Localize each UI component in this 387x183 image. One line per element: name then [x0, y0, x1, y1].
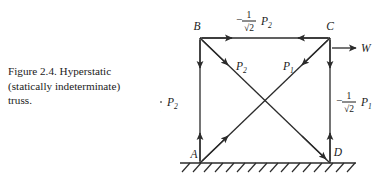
- load-label-w: W: [361, 42, 372, 54]
- force-right-sign: −: [336, 94, 342, 106]
- label-p2-diagonal: P2: [235, 60, 247, 75]
- diagonal-force-labels: P2 P1: [235, 60, 294, 75]
- force-right-numerator: 1: [347, 90, 352, 101]
- force-top-sign: −: [236, 13, 242, 25]
- label-w: W: [361, 42, 372, 54]
- arrow-diag-bd-upper: [202, 40, 228, 65]
- caption-line-1: Figure 2.4. Hyperstatic: [8, 64, 158, 79]
- ground-hatching: [182, 163, 355, 172]
- force-top-numerator: 1: [247, 9, 252, 20]
- caption-line-3: truss.: [8, 93, 158, 108]
- truss-diagram: B C A D W P2 P1 − 1 √2 P2 −: [160, 0, 387, 183]
- force-right-symbol: P1: [360, 96, 372, 111]
- force-label-right: − 1 √2 P1: [336, 90, 372, 114]
- arrow-diag-ac-lower: [202, 136, 228, 161]
- force-top-denominator: √2: [244, 22, 254, 33]
- caption-line-2: (statically indeterminate): [8, 79, 158, 94]
- node-label-c: C: [326, 20, 334, 32]
- force-right-denominator: √2: [344, 103, 354, 114]
- ground-support: [180, 163, 356, 172]
- force-label-top: − 1 √2 P2: [236, 9, 272, 33]
- arrow-diag-bd-lower: [302, 136, 326, 159]
- node-labels: B C A D: [189, 20, 342, 160]
- force-label-left: − 1 √2 P2: [160, 90, 178, 114]
- node-label-a: A: [189, 148, 198, 160]
- label-p1-diagonal: P1: [282, 60, 294, 75]
- member-force-arrows: [200, 38, 330, 161]
- figure-caption: Figure 2.4. Hyperstatic (statically inde…: [8, 64, 158, 108]
- node-label-b: B: [193, 20, 200, 32]
- force-left-symbol: P2: [166, 96, 178, 111]
- node-label-d: D: [333, 146, 343, 158]
- truss-svg: B C A D W P2 P1 − 1 √2 P2 −: [160, 0, 387, 183]
- figure-container: Figure 2.4. Hyperstatic (statically inde…: [0, 0, 387, 183]
- arrow-diag-ac-upper: [302, 40, 328, 65]
- force-top-symbol: P2: [260, 15, 272, 30]
